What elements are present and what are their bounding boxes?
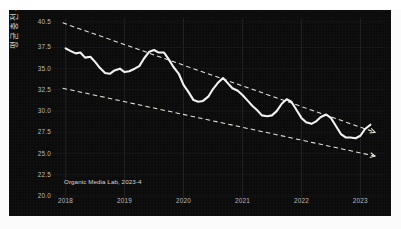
chart-screenshot: 평균 충전 시간 (분) 40.537.535.032.530.027.525.… [0,0,401,229]
chart-panel: 평균 충전 시간 (분) 40.537.535.032.530.027.525.… [9,10,391,216]
gridlines [51,18,385,198]
data-series-line [66,48,371,138]
plot-area [9,10,391,216]
watermark-label: Organic Media Lab, 2023-4 [64,178,141,185]
lower-bound-trend [63,88,375,156]
cropped-title-strip [0,0,401,9]
